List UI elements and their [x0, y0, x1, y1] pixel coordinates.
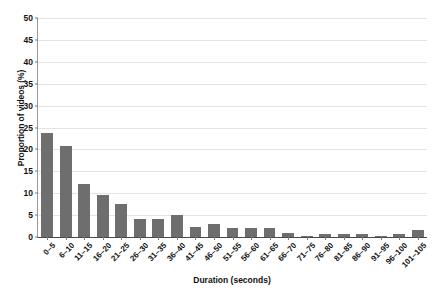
- bar: [171, 215, 183, 237]
- y-tick-label: 15: [24, 166, 33, 176]
- x-tick-mark: [66, 237, 67, 240]
- x-tick-label: 46–50: [202, 241, 224, 263]
- x-tick-label: 61–65: [258, 241, 280, 263]
- x-axis-title: Duration (seconds): [37, 275, 427, 285]
- bar: [97, 195, 109, 237]
- x-tick-label: 41–45: [184, 241, 206, 263]
- x-tick-label: 0–5: [42, 241, 58, 257]
- x-tick-mark: [140, 237, 141, 240]
- x-tick-label: 11–15: [73, 241, 95, 263]
- x-tick-mark: [381, 237, 382, 240]
- figure-container: Proportion of videos (%) 051015202530354…: [0, 0, 434, 293]
- x-tick-mark: [307, 237, 308, 240]
- x-tick-label: 56–60: [239, 241, 261, 263]
- y-tick-label: 35: [24, 79, 33, 89]
- x-tick-mark: [288, 237, 289, 240]
- x-tick-label: 51–55: [221, 241, 243, 263]
- x-tick-label: 21–25: [110, 241, 132, 263]
- x-tick-label: 16–20: [91, 241, 113, 263]
- bar: [208, 224, 220, 237]
- x-tick-mark: [103, 237, 104, 240]
- x-tick-mark: [362, 237, 363, 240]
- y-tick-label: 25: [24, 123, 33, 133]
- x-tick-label: 86–90: [350, 241, 372, 263]
- x-tick-label: 36–40: [165, 241, 187, 263]
- x-tick-mark: [47, 237, 48, 240]
- y-tick-label: 20: [24, 144, 33, 154]
- x-tick-label: 66–70: [276, 241, 298, 263]
- x-tick-mark: [344, 237, 345, 240]
- x-tick-mark: [195, 237, 196, 240]
- x-tick-mark: [399, 237, 400, 240]
- bar: [134, 219, 146, 237]
- x-tick-mark: [84, 237, 85, 240]
- bar: [190, 227, 202, 237]
- y-tick-label: 0: [28, 232, 33, 242]
- x-tick-mark: [251, 237, 252, 240]
- bar-series: [38, 18, 427, 237]
- y-tick-label: 10: [24, 188, 33, 198]
- bar: [227, 228, 239, 237]
- bar: [245, 228, 257, 237]
- x-tick-label: 76–80: [313, 241, 335, 263]
- x-tick-mark: [177, 237, 178, 240]
- plot-area: 05101520253035404550 0–56–1011–1516–2021…: [37, 18, 427, 238]
- bar: [152, 219, 164, 237]
- x-tick-label: 26–30: [128, 241, 150, 263]
- x-tick-mark: [214, 237, 215, 240]
- x-tick-mark: [121, 237, 122, 240]
- y-tick-label: 45: [24, 35, 33, 45]
- x-tick-mark: [158, 237, 159, 240]
- x-tick-label: 81–85: [332, 241, 354, 263]
- bar: [264, 228, 276, 237]
- bar: [60, 146, 72, 237]
- y-tick-label: 30: [24, 101, 33, 111]
- x-tick-label: 71–75: [295, 241, 317, 263]
- y-tick-label: 5: [28, 210, 33, 220]
- bar: [41, 133, 53, 237]
- y-tick-label: 50: [24, 13, 33, 23]
- chart-title: [8, 0, 428, 4]
- y-tick-label: 40: [24, 57, 33, 67]
- x-tick-mark: [270, 237, 271, 240]
- bar: [115, 204, 127, 237]
- x-tick-label: 31–35: [147, 241, 169, 263]
- x-tick-mark: [418, 237, 419, 240]
- x-tick-mark: [233, 237, 234, 240]
- bar: [78, 184, 90, 237]
- x-tick-mark: [325, 237, 326, 240]
